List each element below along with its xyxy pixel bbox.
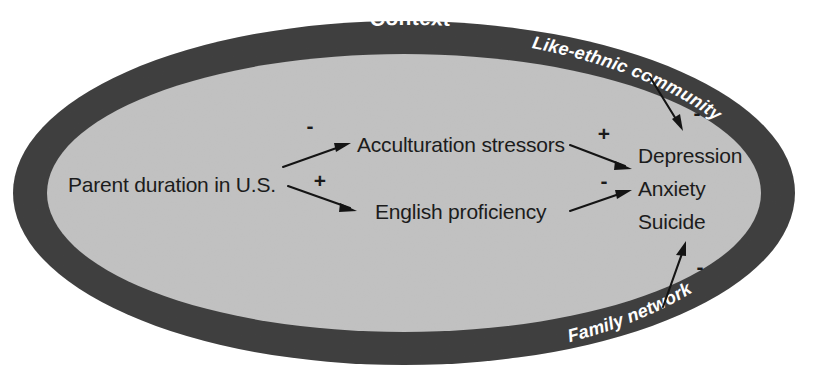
edge-stressors-to-outcomes-sign: + xyxy=(598,122,610,145)
node-parent-duration: Parent duration in U.S. xyxy=(68,173,276,196)
edge-english-to-outcomes-sign: - xyxy=(601,169,608,192)
edge-duration-to-english-sign: + xyxy=(314,169,326,192)
band-title-context-text: Context xyxy=(369,6,450,30)
edge-family-to-outcomes-sign: - xyxy=(697,255,704,278)
edge-duration-to-stressors-sign: - xyxy=(307,114,314,137)
node-english-proficiency: English proficiency xyxy=(375,200,547,223)
outcome-suicide: Suicide xyxy=(638,210,705,233)
context-path-diagram: Context Like-ethnic community Family net… xyxy=(0,0,832,386)
outcome-anxiety: Anxiety xyxy=(638,177,706,200)
outcome-depression: Depression xyxy=(638,144,742,167)
band-title-context: Context xyxy=(369,6,450,30)
node-acculturation-stressors: Acculturation stressors xyxy=(357,133,565,156)
edge-community-to-outcomes-sign: - xyxy=(694,101,701,124)
figure-canvas: Context Like-ethnic community Family net… xyxy=(0,0,832,386)
